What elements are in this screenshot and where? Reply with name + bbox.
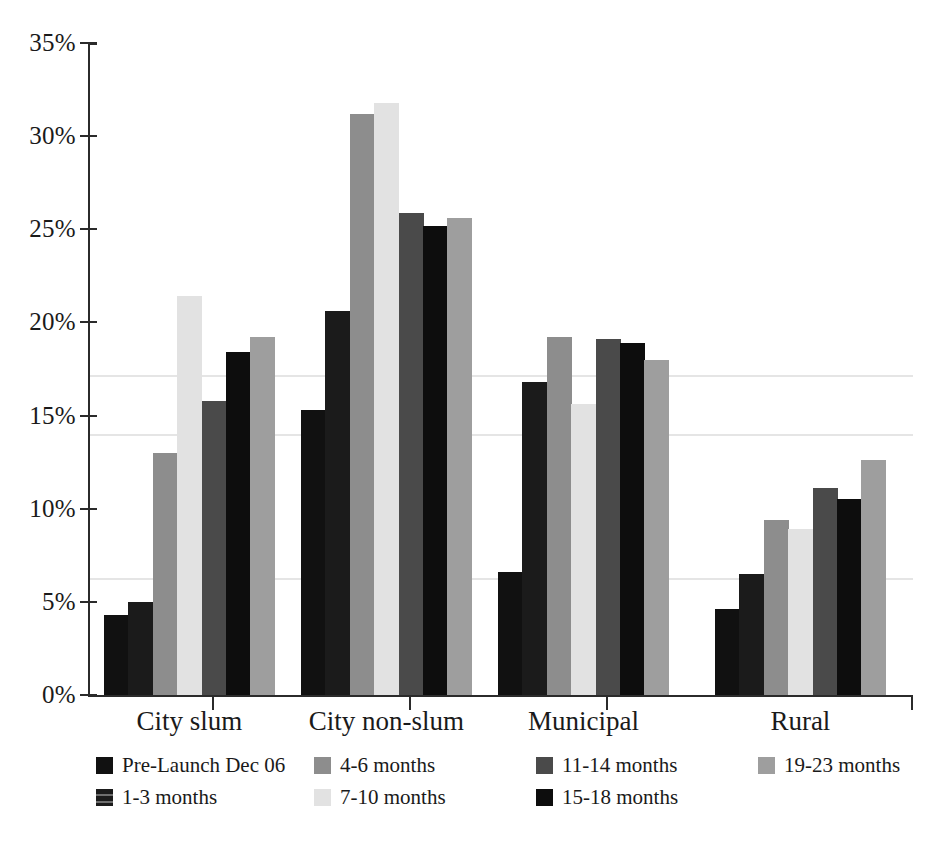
legend-label: 1-3 months <box>122 786 217 808</box>
legend-swatch <box>96 757 113 774</box>
bar <box>325 311 350 695</box>
legend-item[interactable]: 15-18 months <box>536 784 678 810</box>
bar <box>153 453 178 695</box>
bar <box>250 337 275 695</box>
bar <box>498 572 523 695</box>
y-tick-mark <box>80 228 97 230</box>
y-tick-label: 5% <box>2 589 76 614</box>
bar <box>301 410 326 695</box>
legend-label: 4-6 months <box>340 754 435 776</box>
y-tick-mark <box>80 415 97 417</box>
bar <box>764 520 789 695</box>
legend-swatch <box>536 789 553 806</box>
legend-label: Pre-Launch Dec 06 <box>122 754 285 776</box>
legend-swatch <box>758 757 775 774</box>
bar <box>177 296 202 695</box>
legend-item[interactable]: 7-10 months <box>314 784 446 810</box>
bar <box>739 574 764 695</box>
y-tick-label: 35% <box>2 30 76 55</box>
legend-item[interactable]: 1-3 months <box>96 784 217 810</box>
bar-group <box>715 43 886 695</box>
category-label: Municipal <box>473 706 694 736</box>
bar-group <box>104 43 275 695</box>
bar <box>813 488 838 695</box>
bar <box>202 401 227 695</box>
category-label: City non-slum <box>276 706 497 736</box>
y-tick-label: 15% <box>2 403 76 428</box>
y-tick-mark <box>80 508 97 510</box>
legend-label: 15-18 months <box>562 786 678 808</box>
bar <box>399 213 424 695</box>
y-axis <box>88 43 90 696</box>
category-label: Rural <box>690 706 911 736</box>
bar-group <box>301 43 472 695</box>
y-tick-label: 20% <box>2 309 76 334</box>
legend-swatch <box>536 757 553 774</box>
chart-legend: Pre-Launch Dec 061-3 months4-6 months7-1… <box>96 752 916 814</box>
y-tick-label: 0% <box>2 682 76 707</box>
legend-item[interactable]: 4-6 months <box>314 752 435 778</box>
bar <box>104 615 129 695</box>
y-tick-label: 30% <box>2 123 76 148</box>
legend-swatch <box>314 757 331 774</box>
bar <box>571 404 596 695</box>
y-tick-mark <box>80 694 97 696</box>
legend-item[interactable]: 19-23 months <box>758 752 900 778</box>
legend-item[interactable]: Pre-Launch Dec 06 <box>96 752 285 778</box>
category-label: City slum <box>79 706 300 736</box>
bar <box>596 339 621 695</box>
bar <box>644 360 669 695</box>
legend-label: 19-23 months <box>784 754 900 776</box>
bar <box>861 460 886 695</box>
y-tick-label: 25% <box>2 216 76 241</box>
y-tick-mark <box>80 135 97 137</box>
legend-swatch <box>314 789 331 806</box>
y-tick-mark <box>80 42 97 44</box>
bar <box>715 609 740 695</box>
bar-group <box>498 43 669 695</box>
bar <box>620 343 645 695</box>
y-tick-mark <box>80 321 97 323</box>
bar <box>374 103 399 695</box>
page-bottom-edge <box>0 826 938 847</box>
y-tick-label: 10% <box>2 496 76 521</box>
bar <box>350 114 375 695</box>
bar-chart-figure: 0%5%10%15%20%25%30%35% City slumCity non… <box>0 0 938 847</box>
legend-swatch <box>96 789 113 806</box>
bar <box>423 226 448 695</box>
bar <box>522 382 547 695</box>
bar <box>128 602 153 695</box>
x-axis-separator <box>911 697 913 710</box>
bar <box>447 218 472 695</box>
legend-item[interactable]: 11-14 months <box>536 752 677 778</box>
plot-area: 0%5%10%15%20%25%30%35% City slumCity non… <box>0 0 938 710</box>
bar <box>547 337 572 695</box>
bar <box>788 529 813 695</box>
bar <box>226 352 251 695</box>
legend-label: 7-10 months <box>340 786 446 808</box>
legend-label: 11-14 months <box>562 754 677 776</box>
y-tick-mark <box>80 601 97 603</box>
bar <box>837 499 862 695</box>
